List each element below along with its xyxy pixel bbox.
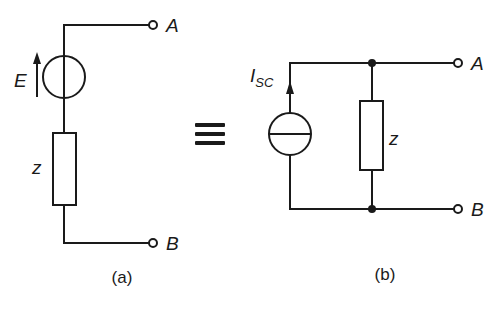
impedance-b-icon <box>360 101 383 170</box>
terminal-a-bottom-icon <box>149 239 157 247</box>
terminal-label-b-bottom: B <box>471 199 484 220</box>
terminal-b-top-icon <box>454 59 462 67</box>
impedance-label-a: z <box>31 157 42 178</box>
source-label-isc-sub: SC <box>255 75 274 90</box>
circuit-b: ISC z A B (b) <box>250 53 484 284</box>
wire-a-bottom <box>64 205 149 243</box>
impedance-label-b: z <box>388 128 399 149</box>
caption-a: (a) <box>112 268 133 287</box>
current-arrow-icon <box>286 81 294 94</box>
terminal-a-top-icon <box>149 21 157 29</box>
caption-b: (b) <box>375 265 396 284</box>
junction-bottom-icon <box>368 205 376 213</box>
terminal-label-a-top: A <box>165 15 179 36</box>
source-label-isc: ISC <box>250 65 274 90</box>
source-label-e: E <box>14 70 27 91</box>
terminal-b-bottom-icon <box>454 205 462 213</box>
impedance-a-icon <box>53 133 76 205</box>
terminal-label-a-bottom: B <box>166 233 179 254</box>
terminal-label-b-top: A <box>470 53 484 74</box>
circuit-diagram: E z A B (a) ISC z A B <box>0 0 504 311</box>
equivalence-icon <box>195 123 225 145</box>
junction-top-icon <box>368 59 376 67</box>
emf-arrow-icon <box>33 52 41 64</box>
circuit-a: E z A B (a) <box>14 15 179 287</box>
